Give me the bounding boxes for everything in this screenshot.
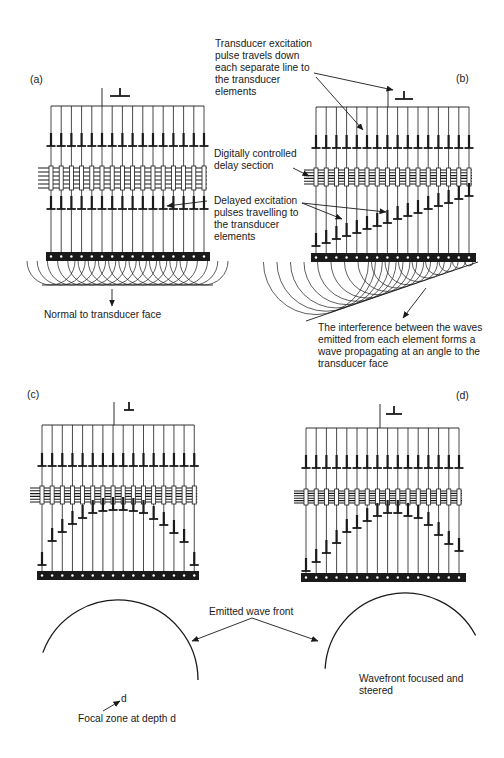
transducer-element [81,574,83,576]
delay-tap [314,168,318,186]
transducer-element [41,574,43,576]
transducer-element [101,255,103,257]
delay-tap [457,168,461,186]
delay-tap [50,486,54,504]
transducer-element [346,576,348,578]
delay-tap [70,486,74,504]
transducer-element [142,255,144,257]
delay-tap [182,166,186,190]
element-wavelet [372,262,424,288]
transducer-element [51,574,53,576]
transducer-element [183,574,185,576]
label-focal-d: d [121,693,127,705]
label-interference: The interference between the waves emitt… [318,322,482,370]
transducer-element [173,574,175,576]
label-delayed-pulses: Delayed excitation pulses travelling to … [214,195,298,243]
delay-tap [120,166,124,190]
transducer-element [91,255,93,257]
delay-tap [385,168,389,186]
panel-label-d: (d) [456,389,469,401]
transducer-element [458,256,460,258]
transducer-element [325,576,327,578]
transducer-element [142,574,144,576]
delay-tap [151,166,155,190]
delay-tap [162,486,166,504]
arrow-interference [403,288,426,318]
transducer-element [447,256,449,258]
delay-tap [365,168,369,186]
delay-tap [355,489,359,505]
delay-tap [182,486,186,504]
transducer-element [112,574,114,576]
transducer-element [325,256,327,258]
wavefront-c [43,600,198,680]
transducer-element [345,256,347,258]
delay-tap [161,166,165,190]
delay-tap [355,168,359,186]
delay-tap [365,489,369,505]
delay-tap [406,168,410,186]
delay-tap [345,489,349,505]
delay-tap [324,168,328,186]
transducer-element [131,255,133,257]
delay-tap [152,486,156,504]
label-excitation: Transducer excitation pulse travels down… [215,38,312,98]
panel-a-planar-wave [27,88,228,306]
arrow-focal-d [103,701,120,711]
element-wavelet [304,262,389,305]
delay-tap [192,166,196,190]
delay-tap [110,166,114,190]
delay-tap [90,166,94,190]
delay-tap [314,489,318,505]
transducer-element [335,256,337,258]
arrow-delayed-b2 [302,203,386,212]
transducer-element [407,576,409,578]
delay-tap [334,168,338,186]
phased-array-diagram [0,0,504,758]
transducer-element [437,576,439,578]
transducer-element [417,576,419,578]
transducer-element [407,256,409,258]
delay-tap [69,166,73,190]
transducer-element [386,256,388,258]
arrow-wavefront-c [192,618,252,641]
transducer-element [71,574,73,576]
delay-tap [81,486,85,504]
transducer-element [437,256,439,258]
delay-tap [324,489,328,505]
transducer-element [376,256,378,258]
transducer-element [152,255,154,257]
delay-tap [345,168,349,186]
delay-tap [416,168,420,186]
panel-d-focused-steered-wave [294,404,466,582]
label-emitted-wavefront: Emitted wave front [209,606,293,618]
transducer-element [468,256,470,258]
delay-tap [447,489,451,505]
delay-tap [416,489,420,505]
delay-tap [437,489,441,505]
transducer-element [386,576,388,578]
transducer-element [305,576,307,578]
label-focused-steered: Wavefront focused and steered [359,673,463,697]
delay-tap [202,166,206,190]
transducer-element [427,576,429,578]
delay-tap [172,486,176,504]
transducer-element [376,576,378,578]
delay-tap [192,486,196,504]
transducer-element [70,255,72,257]
transducer-element [61,574,63,576]
delay-tap [40,486,44,504]
delay-tap [426,168,430,186]
label-focal-zone: Focal zone at depth d [78,713,176,725]
transducer-element [315,256,317,258]
delay-tap [335,489,339,505]
label-normal: Normal to transducer face [44,309,161,321]
transducer-element [193,255,195,257]
transducer-element [315,576,317,578]
delay-tap [396,168,400,186]
delay-tap [171,166,175,190]
transducer-element [132,574,134,576]
delay-tap [406,489,410,505]
transducer-element [335,576,337,578]
transducer-element [458,576,460,578]
